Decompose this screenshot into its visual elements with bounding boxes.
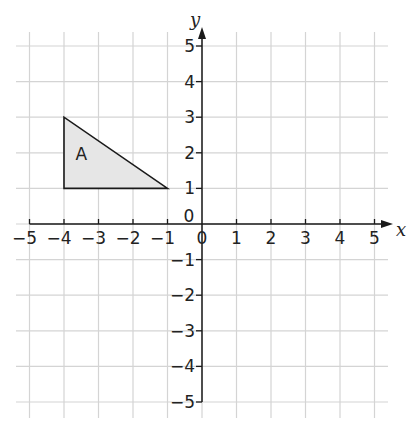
x-tick-label: −2 — [115, 228, 140, 248]
y-tick-label: 2 — [184, 143, 195, 163]
x-tick-label: −3 — [81, 228, 106, 248]
x-tick-label: 0 — [197, 228, 208, 248]
y-tick-label: 4 — [184, 72, 195, 92]
x-tick-label: −1 — [150, 228, 175, 248]
x-tick-label: 2 — [266, 228, 277, 248]
y-tick-label: −1 — [170, 250, 195, 270]
x-tick-label: 1 — [231, 228, 242, 248]
x-axis-arrow-icon — [381, 220, 393, 228]
coordinate-grid: A −5−4−3−2−1012345−5−4−3−2−1012345 x y — [0, 0, 415, 428]
y-tick-label: 5 — [184, 36, 195, 56]
x-tick-label: 5 — [369, 228, 380, 248]
x-tick-label: 4 — [335, 228, 346, 248]
x-tick-label: −5 — [12, 228, 37, 248]
y-axis-label: y — [189, 9, 201, 30]
y-tick-label: −3 — [170, 321, 195, 341]
x-tick-label: −4 — [46, 228, 71, 248]
y-tick-label: −5 — [170, 392, 195, 412]
x-axis-label: x — [396, 219, 406, 240]
y-tick-label: 0 — [184, 206, 195, 226]
y-tick-label: 3 — [184, 107, 195, 127]
y-tick-label: 1 — [184, 178, 195, 198]
shape-label: A — [75, 144, 87, 164]
axes — [30, 27, 394, 402]
y-tick-label: −4 — [170, 356, 195, 376]
x-tick-label: 3 — [300, 228, 311, 248]
y-tick-label: −2 — [170, 285, 195, 305]
